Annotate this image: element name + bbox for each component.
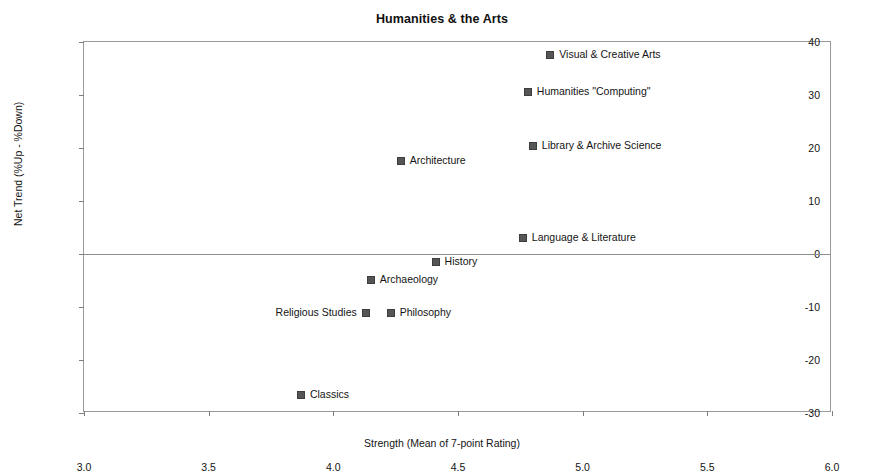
y-tick-mark: [79, 201, 84, 202]
data-point-label: History: [445, 255, 478, 268]
y-tick-label: -30: [805, 407, 820, 419]
y-tick-mark: [79, 148, 84, 149]
y-tick-label: 30: [808, 89, 820, 101]
y-tick-label: -20: [805, 354, 820, 366]
y-tick-mark: [79, 360, 84, 361]
x-tick-mark: [832, 411, 833, 416]
x-tick-label: 3.5: [201, 461, 216, 473]
data-point-label: Visual & Creative Arts: [559, 48, 660, 61]
y-tick-label: 20: [808, 142, 820, 154]
data-point-marker[interactable]: [397, 157, 405, 165]
data-point-marker[interactable]: [546, 51, 554, 59]
data-point-marker[interactable]: [524, 88, 532, 96]
y-axis-label: Net Trend (%Up - %Down): [12, 102, 24, 226]
scatter-chart-figure: Humanities & the Arts Net Trend (%Up - %…: [0, 0, 884, 473]
x-tick-mark: [458, 411, 459, 416]
data-point-label: Classics: [310, 388, 349, 401]
y-tick-label: 40: [808, 36, 820, 48]
y-tick-mark: [79, 42, 84, 43]
x-tick-label: 6.0: [825, 461, 840, 473]
x-axis-label: Strength (Mean of 7-point Rating): [0, 437, 884, 449]
data-point-marker[interactable]: [432, 258, 440, 266]
x-tick-mark: [209, 411, 210, 416]
data-point-label: Philosophy: [400, 306, 451, 319]
data-point-marker[interactable]: [297, 391, 305, 399]
data-point-marker[interactable]: [367, 276, 375, 284]
data-point-marker[interactable]: [519, 234, 527, 242]
data-point-label: Archaeology: [380, 273, 438, 286]
x-tick-mark: [84, 411, 85, 416]
data-point-label: Religious Studies: [276, 306, 357, 319]
chart-title: Humanities & the Arts: [0, 12, 884, 26]
x-tick-label: 3.0: [77, 461, 92, 473]
data-point-label: Library & Archive Science: [542, 139, 662, 152]
data-point-marker[interactable]: [362, 309, 370, 317]
x-tick-label: 5.0: [575, 461, 590, 473]
x-tick-mark: [583, 411, 584, 416]
data-point-marker[interactable]: [529, 142, 537, 150]
x-tick-mark: [333, 411, 334, 416]
y-tick-mark: [79, 307, 84, 308]
x-tick-label: 4.0: [326, 461, 341, 473]
x-tick-label: 5.5: [700, 461, 715, 473]
data-point-label: Language & Literature: [532, 231, 636, 244]
data-point-marker[interactable]: [387, 309, 395, 317]
x-tick-mark: [707, 411, 708, 416]
y-tick-label: -10: [805, 301, 820, 313]
y-tick-mark: [79, 95, 84, 96]
plot-area: 403020100-10-20-30 3.03.54.04.55.05.56.0…: [83, 41, 831, 412]
y-tick-label: 10: [808, 195, 820, 207]
data-point-label: Humanities "Computing": [537, 85, 651, 98]
x-tick-label: 4.5: [451, 461, 466, 473]
data-point-label: Architecture: [410, 154, 466, 167]
